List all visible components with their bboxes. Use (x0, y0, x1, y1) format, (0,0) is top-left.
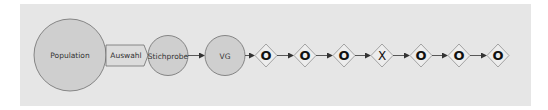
gate-5: O (410, 44, 432, 67)
gate-1: O (255, 44, 277, 67)
stichprobe-node: Stichprobe (148, 36, 189, 76)
gate-7: O (487, 44, 509, 67)
gate-3-symbol: O (338, 48, 349, 63)
gate-5-symbol: O (415, 48, 426, 63)
vg-node: VG (205, 36, 245, 76)
gate-7-symbol: O (492, 48, 503, 63)
gate-3: O (333, 44, 355, 67)
gate-2-symbol: O (299, 48, 310, 63)
auswahl-label: Auswahl (110, 51, 141, 60)
population-node: Population (34, 19, 106, 91)
gate-1-symbol: O (260, 48, 271, 63)
gate-4-exclusive: X (371, 44, 393, 67)
flow-diagram: Population Auswahl Stichprobe VG O O O X (0, 0, 548, 110)
gate-4-symbol: X (378, 49, 386, 63)
auswahl-node: Auswahl (106, 45, 148, 66)
vg-label: VG (220, 52, 231, 61)
population-label: Population (50, 51, 90, 60)
gate-6-symbol: O (453, 48, 464, 63)
gate-6: O (448, 44, 470, 67)
stichprobe-label: Stichprobe (148, 52, 189, 61)
gate-2: O (294, 44, 316, 67)
